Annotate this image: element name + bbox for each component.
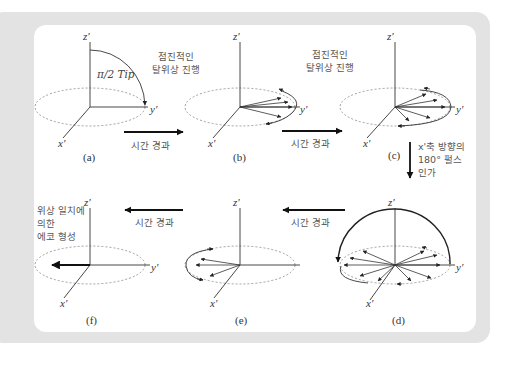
panel-b-y-axis-label: y' <box>300 103 307 115</box>
panel-e-diagram <box>185 208 300 298</box>
echo-formation-caption: 위상 일치에 의한 에코 형성 <box>37 204 85 243</box>
panel-b-label: (b) <box>233 151 246 163</box>
panel-d-diagram <box>338 208 455 300</box>
panel-d-x-axis-label: x' <box>366 297 373 309</box>
panel-f-y-axis-label: y' <box>151 261 158 273</box>
echo-caption-line1: 위상 일치에 <box>37 204 85 217</box>
pulse-caption-line1: x'축 방향의 <box>418 140 465 153</box>
time-elapsed-label-ef: 시간 경과 <box>135 216 174 229</box>
pi-over-2-tip-label: π/2 Tip <box>97 68 135 81</box>
panel-a-x-axis-label: x' <box>58 137 65 149</box>
echo-caption-line3: 에코 형성 <box>37 230 85 243</box>
pulse-caption-line2: 180° 펄스 <box>418 153 465 166</box>
panel-a-y-axis-label: y' <box>150 103 157 115</box>
panel-a-diagram <box>35 42 148 138</box>
pulse-caption-line3: 인가 <box>418 166 465 179</box>
dephasing-caption-1-line2: 탈위상 진행 <box>143 63 209 76</box>
panel-e-z-axis-label: z' <box>233 196 240 208</box>
panel-a-z-axis-label: z' <box>83 30 90 42</box>
panel-b-x-axis-label: x' <box>208 137 215 149</box>
dephasing-caption-1: 점진적인 탈위상 진행 <box>143 50 209 76</box>
spin-echo-diagram <box>0 0 515 365</box>
panel-c-label: (c) <box>388 149 400 161</box>
dephasing-caption-1-line1: 점진적인 <box>143 50 209 63</box>
echo-caption-line2: 의한 <box>37 217 85 230</box>
panel-b-z-axis-label: z' <box>233 30 240 42</box>
panel-f-label: (f) <box>86 314 97 326</box>
panel-c-x-axis-label: x' <box>363 137 370 149</box>
panel-c-z-axis-label: z' <box>387 30 394 42</box>
dephasing-caption-2-line2: 탈위상 진행 <box>297 61 363 74</box>
panel-e-x-axis-label: x' <box>210 297 217 309</box>
panel-d-y-axis-label: y' <box>456 261 463 273</box>
panel-e-label: (e) <box>235 314 247 326</box>
dephasing-caption-2-line1: 점진적인 <box>297 48 363 61</box>
time-elapsed-label-bc: 시간 경과 <box>291 137 330 150</box>
time-elapsed-label-ab: 시간 경과 <box>131 139 170 152</box>
panel-a-label: (a) <box>83 151 95 163</box>
time-elapsed-label-de: 시간 경과 <box>291 216 330 229</box>
panel-d-z-axis-label: z' <box>388 196 395 208</box>
dephasing-caption-2: 점진적인 탈위상 진행 <box>297 48 363 74</box>
panel-d-label: (d) <box>392 314 405 326</box>
pulse-180-caption: x'축 방향의 180° 펄스 인가 <box>418 140 465 179</box>
panel-c-y-axis-label: y' <box>456 103 463 115</box>
panel-f-x-axis-label: x' <box>60 297 67 309</box>
